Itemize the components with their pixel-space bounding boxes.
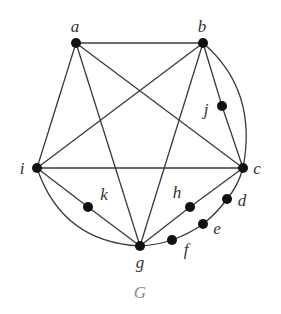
label-i: i: [20, 159, 25, 178]
label-h: h: [173, 183, 182, 202]
label-a: a: [71, 17, 80, 36]
label-e: e: [213, 219, 221, 238]
vertex-h: [185, 202, 195, 212]
vertex-c: [238, 163, 248, 173]
label-k: k: [100, 185, 108, 204]
graph-diagram: a b j c d e f g h k i G: [0, 0, 281, 314]
label-f: f: [184, 240, 191, 259]
edge-b-g: [140, 43, 203, 246]
vertex-e: [198, 219, 208, 229]
vertex-f: [167, 235, 177, 245]
label-b: b: [198, 17, 207, 36]
vertex-j: [217, 101, 227, 111]
edge-k-g: [88, 207, 140, 246]
vertex-g: [135, 241, 145, 251]
vertex-k: [83, 202, 93, 212]
vertex-b: [198, 38, 208, 48]
label-j: j: [202, 100, 209, 119]
edge-a-g: [76, 43, 140, 246]
label-d: d: [238, 191, 247, 210]
edge-g-h: [140, 207, 190, 246]
label-c: c: [253, 159, 261, 178]
vertex-labels: a b j c d e f g h k i: [20, 17, 262, 272]
edge-b-i: [37, 43, 203, 168]
label-g: g: [136, 253, 145, 272]
graph-caption: G: [134, 283, 146, 302]
vertex-a: [71, 38, 81, 48]
vertex-i: [32, 163, 42, 173]
edge-a-i: [37, 43, 76, 168]
edge-j-c: [222, 106, 243, 168]
vertex-d: [222, 194, 232, 204]
edges: [37, 43, 246, 246]
